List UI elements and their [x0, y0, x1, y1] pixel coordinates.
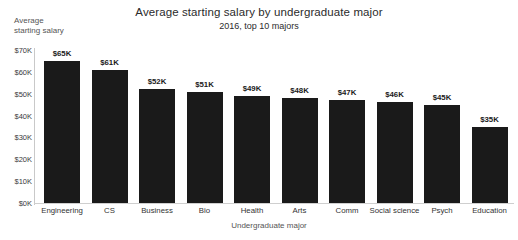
bar-group: $49K: [234, 50, 270, 203]
y-axis-tick-label: $10K: [2, 177, 32, 186]
bar-group: $51K: [187, 50, 223, 203]
bar-group: $65K: [44, 50, 80, 203]
bar-value-label: $65K: [36, 49, 88, 58]
plot-area: $65K$61K$52K$51K$49K$48K$47K$46K$45K$35K: [35, 50, 513, 203]
bar-group: $46K: [377, 50, 413, 203]
bar[interactable]: [139, 89, 175, 203]
bar-value-label: $51K: [179, 80, 231, 89]
bar[interactable]: [92, 70, 128, 203]
bar[interactable]: [424, 105, 460, 203]
bar-value-label: $35K: [464, 115, 516, 124]
y-axis-tick-label: $30K: [2, 133, 32, 142]
bar-value-label: $49K: [226, 84, 278, 93]
bar[interactable]: [329, 100, 365, 203]
x-axis-category-label: Education: [450, 206, 518, 215]
y-axis-tick-label: $20K: [2, 155, 32, 164]
bar-chart: Average starting salary by undergraduate…: [0, 0, 518, 240]
bar-value-label: $61K: [84, 58, 136, 67]
bar-group: $48K: [282, 50, 318, 203]
bar-group: $47K: [329, 50, 365, 203]
bar-group: $52K: [139, 50, 175, 203]
y-axis-tick-label: $50K: [2, 90, 32, 99]
bar-group: $35K: [472, 50, 508, 203]
bar-value-label: $48K: [274, 86, 326, 95]
bar[interactable]: [44, 61, 80, 203]
bar-value-label: $47K: [321, 88, 373, 97]
y-axis-tick-label: $60K: [2, 68, 32, 77]
x-axis-title: Undergraduate major: [169, 221, 369, 230]
bar[interactable]: [187, 92, 223, 203]
y-axis-ticks: $70K$60K$50K$40K$30K$20K$10K$0K: [0, 0, 32, 240]
bar[interactable]: [234, 96, 270, 203]
bar-group: $45K: [424, 50, 460, 203]
bar-value-label: $45K: [416, 93, 468, 102]
x-axis-line: [34, 203, 514, 204]
bar[interactable]: [377, 102, 413, 203]
bar-group: $61K: [92, 50, 128, 203]
y-axis-tick-label: $40K: [2, 112, 32, 121]
bar-value-label: $46K: [369, 90, 421, 99]
bar[interactable]: [282, 98, 318, 203]
y-axis-tick-label: $70K: [2, 46, 32, 55]
bar-value-label: $52K: [131, 77, 183, 86]
bar[interactable]: [472, 127, 508, 204]
